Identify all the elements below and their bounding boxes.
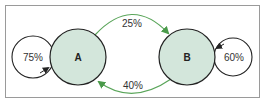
transition-b-to-a-label: 40% [123,80,143,91]
state-b: B [159,29,215,85]
state-diagram: 75% 60% 25% 40% A B [0,0,265,103]
state-a-label: A [74,52,81,63]
transition-a-to-b-label: 25% [122,18,142,29]
self-loop-a-label: 75% [23,52,43,63]
self-loop-b-label: 60% [224,52,244,63]
self-loop-b: 60% [214,38,252,76]
state-a: A [50,29,106,85]
state-b-label: B [183,52,190,63]
